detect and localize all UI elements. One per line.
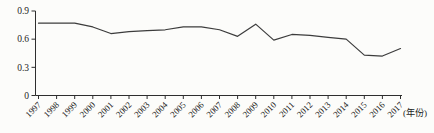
x-tick-label: 2007 <box>204 99 224 119</box>
axes <box>36 11 403 96</box>
x-tick-label: 2002 <box>114 100 134 120</box>
x-tick-label: 1998 <box>42 99 62 119</box>
x-tick-label: 2012 <box>295 100 315 120</box>
x-tick-label: 2010 <box>259 99 279 119</box>
y-tick-label: 0.3 <box>17 63 29 73</box>
x-tick-label: 1997 <box>23 99 43 119</box>
y-tick-label: 0.9 <box>17 6 29 16</box>
x-tick-label: 2001 <box>96 100 116 120</box>
x-tick-label: 2011 <box>277 100 296 119</box>
data-line <box>39 23 401 56</box>
line-chart-figure: 00.30.60.9199719981999200020012002200320… <box>0 0 434 133</box>
x-axis-unit-label: (年份) <box>403 107 427 118</box>
line-chart-svg: 00.30.60.9199719981999200020012002200320… <box>0 0 434 133</box>
x-tick-label: 2014 <box>331 99 351 119</box>
x-tick-label: 2004 <box>150 99 170 119</box>
x-tick-label: 2003 <box>132 99 152 119</box>
x-tick-label: 2013 <box>313 99 333 119</box>
y-tick-label: 0.6 <box>17 34 29 44</box>
y-tick-label: 0 <box>24 91 29 101</box>
x-tick-label: 2016 <box>367 99 387 119</box>
x-tick-label: 1999 <box>60 99 80 119</box>
x-tick-label: 2015 <box>349 99 369 119</box>
x-tick-label: 2005 <box>168 99 188 119</box>
x-tick-label: 2006 <box>186 99 206 119</box>
x-tick-label: 2008 <box>223 99 243 119</box>
x-tick-label: 2000 <box>78 99 98 119</box>
x-tick-label: 2009 <box>241 99 261 119</box>
